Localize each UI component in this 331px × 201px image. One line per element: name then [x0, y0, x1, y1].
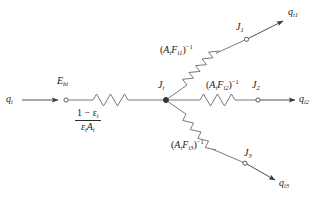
label-node-j1: J1: [236, 22, 244, 32]
label-incoming-flux: qi: [6, 94, 13, 104]
branch3-wire-lower: [213, 149, 244, 162]
label-outgoing-flux-2: qi2: [299, 94, 309, 104]
surface-resistance-numerator: 1 − εi: [75, 108, 101, 119]
radiation-network-diagram: qi Ebi 1 − εi εiAi Ji (AiFi1)−1 (AiFi2)−…: [0, 0, 331, 201]
node-j1: [244, 37, 248, 41]
label-eb-i: Ebi: [57, 76, 68, 86]
outgoing-flux-arrow-3: [247, 164, 275, 180]
branch1-wire-upper: [216, 40, 245, 53]
label-space-resistance-3: (AiFi3)−1: [171, 140, 204, 150]
branch3-wire-upper: [168, 101, 180, 110]
network-graphics: [0, 0, 331, 201]
node-eb-i: [64, 98, 68, 102]
label-surface-resistance: 1 − εi εiAi: [75, 108, 101, 132]
outgoing-flux-arrow-1: [249, 21, 283, 38]
surface-resistance-denominator: εiAi: [75, 122, 101, 133]
label-node-j3: J3: [244, 148, 252, 158]
label-space-resistance-1: (AiFi1)−1: [160, 45, 193, 55]
label-space-resistance-2: (AiFi2)−1: [206, 80, 239, 90]
branch1-wire-lower: [168, 90, 180, 99]
node-j3: [243, 161, 247, 165]
label-node-j2: J2: [252, 80, 260, 90]
label-outgoing-flux-3: qi3: [279, 178, 289, 188]
node-j2: [256, 98, 260, 102]
branch2-zigzag: [200, 94, 235, 106]
surface-resistance-zigzag: [93, 94, 128, 106]
label-outgoing-flux-1: qi1: [288, 7, 298, 17]
label-junction-j-i: Ji: [158, 80, 164, 90]
